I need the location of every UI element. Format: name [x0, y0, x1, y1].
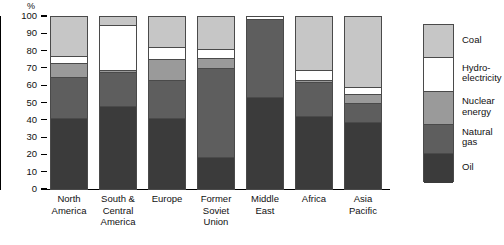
y-tick-label: 40 [8, 115, 37, 125]
y-tick-label: 80 [8, 46, 37, 56]
bar-segment-hydro-electricity [246, 16, 284, 19]
y-tick-label: 50 [8, 98, 37, 108]
legend-label-oil: Oil [462, 162, 474, 173]
bar-segment-nuclear-energy [295, 80, 333, 82]
stacked-bar [99, 16, 137, 190]
bar-segment-coal [50, 16, 88, 56]
bar-segment-oil [246, 97, 284, 189]
y-tick-label: 60 [8, 80, 37, 90]
legend-label-line: energy [462, 107, 495, 118]
bar-segment-hydro-electricity [148, 47, 186, 59]
bar-segment-hydro-electricity [99, 25, 137, 71]
bar-segment-oil [295, 116, 333, 189]
y-tick-label: 90 [8, 28, 37, 38]
bar-segment-natural-gas [344, 103, 382, 121]
bar-segment-nuclear-energy [99, 70, 137, 72]
bar-segment-oil [50, 118, 88, 189]
bar-segment-natural-gas [50, 77, 88, 119]
stacked-bar [295, 16, 333, 190]
legend-label-line: gas [462, 137, 493, 148]
stacked-bar [344, 16, 382, 190]
bar-segment-coal [295, 16, 333, 70]
legend-swatch-oil [424, 153, 453, 183]
bar-segment-hydro-electricity [344, 87, 382, 94]
x-axis-label-line: Union [187, 216, 245, 228]
bar-segment-hydro-electricity [295, 70, 333, 80]
x-axis-label-line: Asia [334, 193, 392, 205]
bar-segment-natural-gas [99, 72, 137, 106]
legend-label-coal: Coal [462, 35, 482, 46]
bar-segment-natural-gas [197, 68, 235, 157]
bar-group [47, 16, 390, 190]
bar-segment-coal [197, 16, 235, 49]
bar-segment-nuclear-energy [197, 58, 235, 68]
legend-label-line: electricity [462, 73, 502, 84]
legend-swatch-hydro- [424, 57, 453, 91]
y-tick-label: 100 [8, 11, 37, 21]
bar-segment-nuclear-energy [344, 94, 382, 104]
bar-segment-oil [99, 106, 137, 189]
x-axis-label-line: America [89, 216, 147, 228]
legend-label-line: Oil [462, 162, 474, 173]
x-axis-category-labels: NorthAmericaSouth &CentralAmericaEuropeF… [47, 193, 390, 243]
bar-segment-coal [344, 16, 382, 87]
y-tick-label: 70 [8, 63, 37, 73]
y-tick-label: 0 [8, 184, 37, 194]
bar-segment-nuclear-energy [50, 63, 88, 77]
legend-swatch-natural [424, 124, 453, 153]
bar-segment-natural-gas [148, 80, 186, 118]
x-axis-label-line: Pacific [334, 205, 392, 217]
y-tick-label: 10 [8, 167, 37, 177]
chart-root: % 1009080706050403020100 NorthAmericaSou… [0, 0, 504, 245]
bar-segment-hydro-electricity [50, 56, 88, 63]
stacked-bar [148, 16, 186, 190]
legend-swatch-column [423, 24, 454, 182]
legend-label-hydro-: Hydro-electricity [462, 63, 502, 84]
bar-segment-oil [197, 157, 235, 189]
stacked-bar [50, 16, 88, 190]
legend-label-nuclear: Nuclearenergy [462, 96, 495, 117]
legend-swatch-coal [424, 25, 453, 57]
legend-label-line: Nuclear [462, 96, 495, 107]
stacked-bar [197, 16, 235, 190]
bar-segment-natural-gas [246, 19, 284, 97]
bar-segment-coal [148, 16, 186, 47]
bar-segment-coal [99, 16, 137, 25]
stacked-bar [246, 16, 284, 190]
x-axis-label-line: East [236, 205, 294, 217]
bar-segment-oil [148, 118, 186, 189]
legend-label-line: Coal [462, 35, 482, 46]
legend-swatch-nuclear [424, 91, 453, 123]
x-axis-label: AsiaPacific [334, 193, 392, 216]
y-tick-label: 30 [8, 132, 37, 142]
y-tick-label: 20 [8, 149, 37, 159]
y-axis-line [0, 16, 1, 190]
x-axis-label-line: Central [89, 205, 147, 217]
bar-segment-oil [344, 122, 382, 189]
bar-segment-natural-gas [295, 82, 333, 117]
bar-segment-nuclear-energy [148, 59, 186, 80]
bar-segment-hydro-electricity [197, 49, 235, 58]
legend-label-natural: Naturalgas [462, 127, 493, 148]
